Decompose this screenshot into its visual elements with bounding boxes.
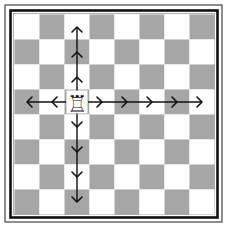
board-square [115, 65, 140, 90]
board-square [40, 140, 65, 165]
board-square [140, 140, 165, 165]
board-square [115, 15, 140, 40]
board-square [140, 40, 165, 65]
board-square [190, 65, 215, 90]
board-square [165, 190, 190, 215]
board-square [115, 190, 140, 215]
board-square [165, 140, 190, 165]
board-square [90, 65, 115, 90]
board-square [115, 140, 140, 165]
board-square [15, 15, 40, 40]
board-square [140, 115, 165, 140]
board-square [190, 40, 215, 65]
board-square [140, 15, 165, 40]
board-square [165, 15, 190, 40]
board-square [40, 65, 65, 90]
board-square [15, 190, 40, 215]
board-square [15, 140, 40, 165]
board-square [140, 65, 165, 90]
board-square [15, 115, 40, 140]
board-square [190, 165, 215, 190]
board-square [165, 165, 190, 190]
board-square [15, 165, 40, 190]
rook-icon: ♖ [67, 91, 88, 117]
board-squares [15, 15, 215, 215]
board-square [90, 190, 115, 215]
board-square [40, 115, 65, 140]
board-square [115, 165, 140, 190]
board-square [15, 40, 40, 65]
board-square [40, 40, 65, 65]
board-square [165, 40, 190, 65]
board-square [115, 115, 140, 140]
board-square [140, 190, 165, 215]
board-square [115, 40, 140, 65]
rook-piece: ♖ [67, 91, 88, 117]
board-square [190, 190, 215, 215]
board-square [90, 40, 115, 65]
board-square [40, 15, 65, 40]
board-square [40, 165, 65, 190]
board-square [90, 165, 115, 190]
board-square [165, 65, 190, 90]
board-square [15, 65, 40, 90]
board-square [90, 115, 115, 140]
board-square [90, 15, 115, 40]
board-square [140, 165, 165, 190]
board-square [190, 140, 215, 165]
board-square [190, 115, 215, 140]
chess-rook-movement-diagram: ♖ [0, 0, 228, 228]
board-square [40, 190, 65, 215]
board-square [190, 15, 215, 40]
board-square [165, 115, 190, 140]
board-square [90, 140, 115, 165]
